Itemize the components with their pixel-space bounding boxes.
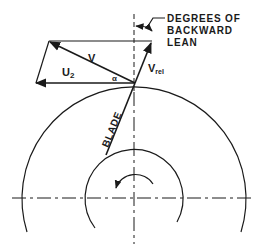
blade-label: BLADE <box>100 110 124 149</box>
lean-arrow-right-icon <box>148 27 152 31</box>
vrel-label: Vrel <box>148 62 164 75</box>
parallelogram-left-side <box>36 41 49 83</box>
annotation-degrees-of: DEGREES OF <box>167 13 241 24</box>
u2-label-main: U <box>62 66 70 78</box>
u2-label-sub: 2 <box>70 71 75 80</box>
alpha-angle-label: α <box>112 74 117 83</box>
lean-arrow-left-icon <box>136 26 147 27</box>
v-label: V <box>88 52 96 64</box>
leader-line <box>148 18 165 26</box>
vrel-label-sub: rel <box>155 68 164 75</box>
u2-label: U2 <box>62 66 75 80</box>
annotation-lean: LEAN <box>167 37 197 48</box>
annotation-backward: BACKWARD <box>167 25 233 36</box>
fan-velocity-diagram: DEGREES OF BACKWARD LEAN V U2 Vrel α BLA… <box>0 0 269 245</box>
